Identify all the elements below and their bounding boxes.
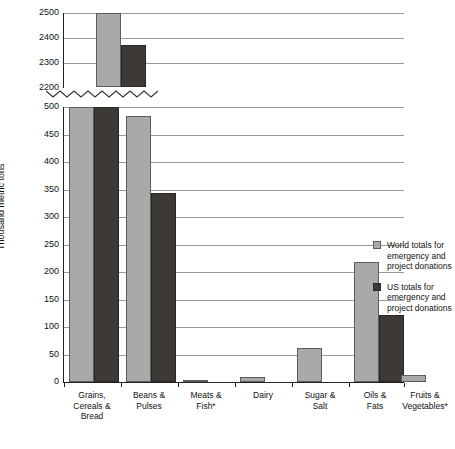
legend-item-world: World totals for emergency and project d… (373, 240, 455, 272)
legend: World totals for emergency and project d… (373, 240, 455, 323)
bar-chart: 2500 2400 2300 2200 Thousand metric tons… (0, 0, 455, 449)
bar-meats-world (183, 380, 208, 382)
bar-grains-us (94, 107, 119, 382)
legend-label-world: World totals for emergency and project d… (387, 240, 452, 272)
bar-oils-us (379, 315, 404, 382)
x-axis-line (63, 382, 404, 383)
upper-y-tick-2300: 2300 (15, 57, 59, 67)
main-plot-panel: Thousand metric tons 500 450 400 350 300… (0, 100, 455, 449)
x-label-beans: Beans & Pulses (119, 390, 179, 411)
bar-group-meats (178, 107, 235, 382)
y-tick-200: 200 (15, 266, 59, 276)
axis-break-zigzag-icon (46, 88, 158, 100)
upper-y-tick-2500: 2500 (15, 7, 59, 17)
legend-label-us: US totals for emergency and project dona… (387, 282, 452, 314)
x-label-fruits: Fruits & Vegetables* (394, 390, 455, 411)
legend-swatch-world-icon (373, 241, 381, 249)
y-tick-100: 100 (15, 321, 59, 331)
bar-group-grains (64, 107, 121, 382)
legend-item-us: US totals for emergency and project dona… (373, 282, 455, 314)
y-tick-400: 400 (15, 156, 59, 166)
x-tickmark-5 (349, 383, 350, 387)
y-axis-title: Thousand metric tons (0, 163, 6, 250)
x-tickmark-0 (64, 383, 65, 387)
bar-grains-world (69, 107, 94, 382)
bar-sugar-world (297, 348, 322, 382)
y-tick-150: 150 (15, 294, 59, 304)
upper-bar-grains-world (96, 13, 121, 87)
broken-axis-upper-panel: 2500 2400 2300 2200 (0, 0, 455, 100)
bar-group-beans (121, 107, 178, 382)
x-label-dairy: Dairy (233, 390, 293, 401)
x-tickmark-2 (178, 383, 179, 387)
y-tick-50: 50 (15, 349, 59, 359)
y-tick-0: 0 (15, 376, 59, 386)
x-label-sugar: Sugar & Salt (290, 390, 350, 411)
x-tickmark-6 (404, 383, 405, 387)
x-tickmark-4 (292, 383, 293, 387)
y-tick-450: 450 (15, 129, 59, 139)
x-tickmark-3 (235, 383, 236, 387)
upper-y-tick-2400: 2400 (15, 32, 59, 42)
y-tick-500: 500 (15, 101, 59, 111)
bar-beans-world (126, 116, 151, 382)
upper-bar-grains-us (121, 45, 146, 87)
plot-area: World totals for emergency and project d… (64, 107, 404, 382)
bar-fruits-world (401, 375, 426, 382)
bar-group-sugar (292, 107, 349, 382)
y-tick-300: 300 (15, 211, 59, 221)
x-label-grains: Grains, Cereals & Bread (62, 390, 122, 422)
upper-plot-area (64, 13, 404, 87)
y-tick-350: 350 (15, 184, 59, 194)
x-label-meats: Meats & Fish* (176, 390, 236, 411)
y-tick-250: 250 (15, 239, 59, 249)
x-tickmark-1 (121, 383, 122, 387)
legend-swatch-us-icon (373, 283, 381, 291)
bar-dairy-world (240, 377, 265, 382)
bar-group-dairy (235, 107, 292, 382)
bar-beans-us (151, 193, 176, 382)
